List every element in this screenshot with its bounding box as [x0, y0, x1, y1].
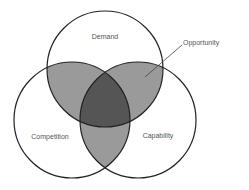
- label-demand: Demand: [92, 33, 119, 40]
- label-opportunity: Opportunity: [183, 39, 220, 47]
- label-competition: Competition: [31, 133, 68, 141]
- venn-diagram: Demand Competition Capability Opportunit…: [0, 0, 249, 190]
- label-capability: Capability: [143, 132, 174, 140]
